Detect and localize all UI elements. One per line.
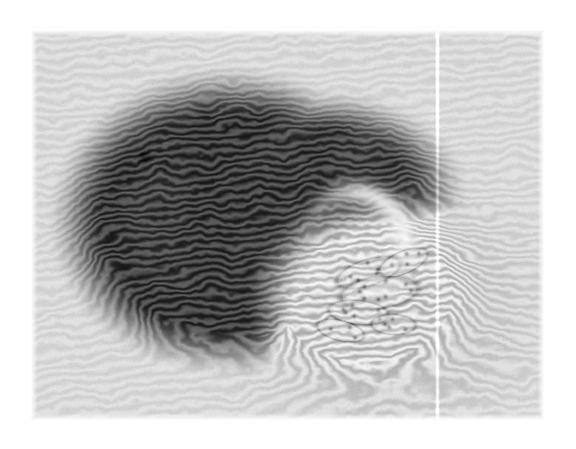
figure-page [0, 0, 576, 449]
micrograph-canvas [31, 30, 544, 420]
interference-phase-micrograph[interactable] [31, 30, 544, 420]
